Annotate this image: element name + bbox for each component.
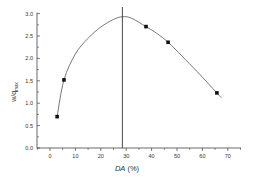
fit-curve-path — [57, 17, 221, 117]
data-point-marker — [215, 91, 219, 95]
x-tick-label: 10 — [72, 153, 78, 159]
x-tick-label: 60 — [199, 153, 205, 159]
x-tick-label: 50 — [174, 153, 180, 159]
x-tick-label: 30 — [123, 153, 129, 159]
y-tick-label: 1.0 — [25, 100, 33, 106]
data-point-marker — [144, 25, 148, 29]
y-tick-label: 3.0 — [25, 11, 33, 17]
chart-container: 0.00.51.01.52.02.53.0010203040506070 DA … — [0, 0, 254, 179]
axes: 0.00.51.01.52.02.53.0010203040506070 — [25, 11, 241, 159]
data-point-marker — [166, 40, 170, 44]
y-tick-label: 0.5 — [25, 123, 33, 129]
x-tick-label: 20 — [98, 153, 104, 159]
y-tick-label: 2.5 — [25, 33, 33, 39]
x-tick-label: 0 — [48, 153, 51, 159]
x-tick-label: 40 — [149, 153, 155, 159]
fit-curve — [57, 17, 221, 117]
y-tick-label: 2.0 — [25, 55, 33, 61]
y-tick-label: 1.5 — [25, 78, 33, 84]
y-tick-label: 0.0 — [25, 145, 33, 151]
x-axis-label: DA (%) — [115, 164, 140, 173]
x-tick-label: 70 — [225, 153, 231, 159]
data-point-marker — [62, 78, 66, 82]
data-point-marker — [55, 115, 59, 119]
data-markers — [55, 25, 218, 119]
y-axis-label: w/qmax — [10, 82, 19, 103]
line-chart: 0.00.51.01.52.02.53.0010203040506070 DA … — [0, 0, 254, 179]
